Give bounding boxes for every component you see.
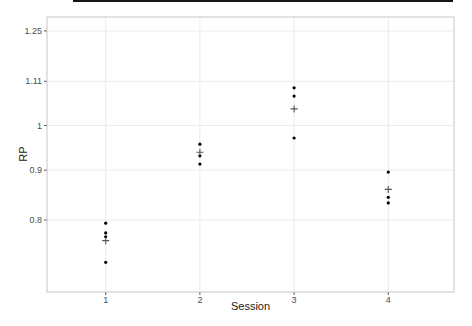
y-tick-label: 1.25 bbox=[24, 26, 42, 36]
y-tick-label: 0.9 bbox=[29, 165, 42, 175]
data-point bbox=[104, 261, 107, 264]
y-tick-label: 0.8 bbox=[29, 215, 42, 225]
data-point bbox=[293, 86, 296, 89]
data-point bbox=[387, 196, 390, 199]
data-point bbox=[104, 231, 107, 234]
y-tick-label: 1 bbox=[37, 121, 42, 131]
y-tick-label: 1.11 bbox=[25, 76, 42, 86]
scatter-plot: 1.251.1110.90.81234 bbox=[0, 0, 472, 326]
data-point bbox=[104, 222, 107, 225]
data-point bbox=[293, 136, 296, 139]
figure: 1.251.1110.90.81234 RP Session bbox=[0, 0, 472, 326]
data-point bbox=[387, 170, 390, 173]
data-point bbox=[198, 162, 201, 165]
data-point bbox=[293, 94, 296, 97]
y-axis-title: RP bbox=[17, 146, 29, 161]
data-point bbox=[387, 201, 390, 204]
x-axis-title: Session bbox=[47, 300, 454, 312]
plot-panel bbox=[47, 17, 454, 292]
data-point bbox=[198, 143, 201, 146]
